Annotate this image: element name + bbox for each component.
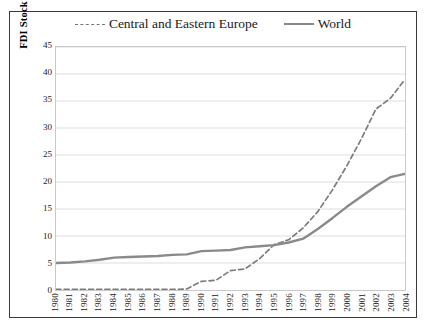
x-axis-tick-label: 1995 xyxy=(269,293,280,312)
y-axis-tick-label: 35 xyxy=(30,94,52,104)
chart-svg xyxy=(56,47,405,290)
x-axis-tick-label: 1998 xyxy=(313,293,324,312)
x-axis-tick-label: 1992 xyxy=(225,293,236,312)
x-axis-tick-label: 1999 xyxy=(327,293,338,312)
x-axis-tick-label: 1993 xyxy=(240,293,251,312)
x-axis-tick-label: 2004 xyxy=(401,293,412,312)
x-axis-tick-label: 1996 xyxy=(284,293,295,312)
y-axis-tick-label: 45 xyxy=(30,40,52,50)
x-axis-tick-label: 1994 xyxy=(254,293,265,312)
chart-frame: Central and Eastern Europe World FDI Sto… xyxy=(9,11,417,318)
x-axis-tick-label: 1989 xyxy=(181,293,192,312)
x-axis-tick-label: 2000 xyxy=(342,293,353,312)
x-axis-tick-label: 2003 xyxy=(386,293,397,312)
x-axis-tick-label: 1990 xyxy=(196,293,207,312)
legend-item-world: World xyxy=(284,16,351,32)
x-axis-tick-label: 1997 xyxy=(298,293,309,312)
x-axis-tick-label: 1991 xyxy=(210,293,221,312)
dashed-line-key-icon xyxy=(75,24,105,25)
chart-legend: Central and Eastern Europe World xyxy=(10,16,416,32)
legend-label-world: World xyxy=(318,16,351,32)
x-axis-tick-label: 1981 xyxy=(64,293,75,312)
legend-item-cee: Central and Eastern Europe xyxy=(75,16,258,32)
x-axis-tick-label: 1982 xyxy=(79,293,90,312)
x-axis-tick-labels: 1980198119821983198419851986198719881989… xyxy=(55,293,406,331)
y-axis-tick-label: 20 xyxy=(30,176,52,186)
y-axis-tick-label: 25 xyxy=(30,149,52,159)
y-axis-tick-label: 5 xyxy=(30,258,52,268)
x-axis-tick-label: 1988 xyxy=(167,293,178,312)
y-axis-tick-label: 0 xyxy=(30,285,52,295)
y-axis-tick-labels: 051015202530354045 xyxy=(26,46,52,291)
x-axis-tick-label: 2001 xyxy=(357,293,368,312)
x-axis-tick-label: 1980 xyxy=(50,293,61,312)
plot-canvas xyxy=(55,46,406,291)
x-axis-tick-label: 1986 xyxy=(137,293,148,312)
x-axis-tick-label: 1984 xyxy=(108,293,119,312)
series-line-world xyxy=(56,174,405,263)
y-axis-tick-label: 30 xyxy=(30,122,52,132)
x-axis-tick-label: 1985 xyxy=(123,293,134,312)
plot-area xyxy=(55,46,406,291)
x-axis-tick-label: 1987 xyxy=(152,293,163,312)
solid-line-key-icon xyxy=(284,23,314,25)
x-axis-tick-label: 2002 xyxy=(371,293,382,312)
y-axis-tick-label: 40 xyxy=(30,67,52,77)
legend-label-cee: Central and Eastern Europe xyxy=(109,16,258,32)
x-axis-tick-label: 1983 xyxy=(93,293,104,312)
y-axis-tick-label: 10 xyxy=(30,231,52,241)
y-axis-tick-label: 15 xyxy=(30,203,52,213)
